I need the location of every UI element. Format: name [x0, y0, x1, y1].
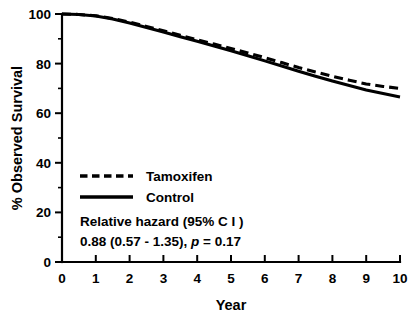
x-tick-label-9: 9 [362, 271, 370, 286]
y-tick-label-80: 80 [36, 57, 51, 72]
x-tick-label-7: 7 [295, 271, 303, 286]
series-line-control [62, 14, 400, 97]
x-tick-label-2: 2 [126, 271, 134, 286]
y-tick-label-40: 40 [36, 156, 51, 171]
hazard-annotation: Relative hazard (95% C I ) 0.88 (0.57 - … [80, 214, 244, 249]
x-tick-label-0: 0 [58, 271, 66, 286]
x-tick-label-3: 3 [160, 271, 168, 286]
y-tick-label-0: 0 [43, 255, 51, 270]
annotation-line-2: 0.88 (0.57 - 1.35), p = 0.17 [80, 234, 241, 249]
x-tick-label-5: 5 [227, 271, 235, 286]
annotation-hazard-value: 0.88 (0.57 - 1.35), [80, 234, 191, 249]
x-tick-label-1: 1 [92, 271, 100, 286]
annotation-p-symbol: p [190, 234, 199, 249]
x-tick-label-4: 4 [193, 271, 201, 286]
x-tick-label-6: 6 [261, 271, 269, 286]
chart-legend: Tamoxifen Control [80, 169, 213, 205]
x-axis-title: Year [216, 297, 247, 313]
y-tick-label-100: 100 [28, 7, 51, 22]
y-axis-title: % Observed Survival [9, 66, 25, 210]
annotation-p-value: = 0.17 [199, 234, 241, 249]
x-tick-label-10: 10 [392, 271, 407, 286]
data-series-group [62, 14, 400, 97]
y-tick-label-60: 60 [36, 106, 51, 121]
survival-chart-figure: 020406080100 012345678910 Year % Observe… [0, 0, 417, 322]
legend-label-control: Control [146, 190, 194, 205]
annotation-line-1: Relative hazard (95% C I ) [80, 214, 244, 229]
y-tick-label-20: 20 [36, 205, 51, 220]
legend-label-tamoxifen: Tamoxifen [146, 169, 213, 184]
x-axis-tick-labels: 012345678910 [58, 271, 407, 286]
chart-canvas: 020406080100 012345678910 Year % Observe… [0, 0, 417, 322]
x-tick-label-8: 8 [329, 271, 337, 286]
y-axis-tick-labels: 020406080100 [28, 7, 51, 270]
